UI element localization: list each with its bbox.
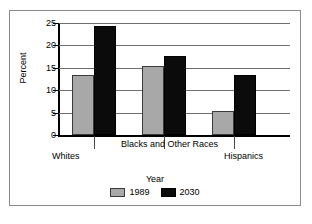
y-axis-tick-mark bbox=[53, 113, 59, 114]
legend-swatch bbox=[110, 188, 125, 197]
bar bbox=[234, 75, 256, 135]
bar bbox=[212, 111, 234, 135]
legend-entry: 2030 bbox=[161, 188, 200, 197]
chart-figure: Percent 2520151050 Year 19892030 WhitesB… bbox=[10, 11, 300, 205]
legend-entry: 1989 bbox=[110, 188, 149, 197]
x-axis-category-label: Blacks and Other Races bbox=[121, 139, 218, 149]
bar bbox=[72, 75, 94, 135]
legend-label: 2030 bbox=[180, 188, 200, 197]
x-axis-tick-mark bbox=[94, 136, 95, 149]
bar bbox=[164, 56, 186, 135]
y-axis-tick-mark bbox=[53, 68, 59, 69]
legend-swatch bbox=[161, 188, 176, 197]
cropped-text-artifact bbox=[0, 0, 312, 9]
y-axis-tick-mark bbox=[53, 90, 59, 91]
plot-area bbox=[58, 23, 288, 135]
bar bbox=[142, 66, 164, 135]
gridline bbox=[59, 23, 290, 24]
x-axis-category-label: Whites bbox=[52, 151, 80, 161]
y-axis-tick-mark bbox=[53, 135, 59, 136]
x-axis-tick-mark bbox=[234, 136, 235, 149]
chart-frame: Percent 2520151050 Year 19892030 WhitesB… bbox=[9, 10, 301, 206]
y-axis-tick-mark bbox=[53, 45, 59, 46]
x-axis-title: Year bbox=[10, 174, 300, 184]
x-axis-category-label: Hispanics bbox=[224, 151, 263, 161]
y-axis-tick-mark bbox=[53, 23, 59, 24]
y-axis-title: Percent bbox=[18, 33, 28, 103]
y-axis-line bbox=[58, 23, 60, 136]
legend-label: 1989 bbox=[129, 188, 149, 197]
x-axis-line bbox=[58, 135, 290, 137]
chart-legend: 19892030 bbox=[10, 188, 300, 197]
y-axis-tick-labels: 2520151050 bbox=[30, 23, 56, 135]
bar bbox=[94, 26, 116, 135]
